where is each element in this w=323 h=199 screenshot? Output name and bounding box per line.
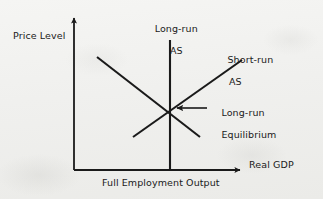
equilibrium-label-line1: Long-run (221, 107, 264, 118)
long-run-as-label-line2: AS (170, 45, 183, 56)
x-axis-label: Real GDP (249, 159, 294, 170)
long-run-as-label: Long-run AS (139, 12, 201, 67)
y-axis-label: Price Level (13, 30, 65, 41)
short-run-as-label-line1: Short-run (227, 54, 273, 65)
long-run-equilibrium-annotation: Long-run Equilibrium (209, 96, 276, 151)
full-employment-output-label: Full Employment Output (102, 177, 220, 188)
equilibrium-label-line2: Equilibrium (221, 129, 276, 140)
long-run-as-label-line1: Long-run (155, 23, 198, 34)
short-run-as-label-line2: AS (215, 76, 279, 87)
economics-diagram: Price Level Long-run AS Short-run AS Lon… (0, 0, 323, 199)
